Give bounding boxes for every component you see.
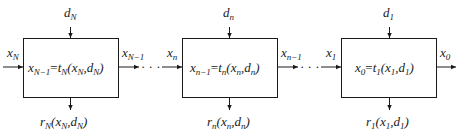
stage-N-input-label: xN [7, 46, 19, 64]
stage-N-transform-equation: xN−1=tN(xN,dN) [28, 61, 104, 79]
ellipsis-2: · · · [300, 60, 320, 74]
stage-1-transform-equation: x0=t1(x1,d1) [355, 61, 414, 79]
stage-n-return-label: rn(xn,dn) [207, 115, 250, 133]
stage-1-input-label: x1 [326, 46, 336, 64]
stage-n-decision-label: dn [223, 6, 234, 24]
stage-N-return-label: rN(xN,dN) [40, 115, 87, 133]
stage-n-transform-equation: xn−1=tn(xn,dn) [190, 61, 260, 79]
multistage-diagram: · · · · · · dN xN xN−1 xN−1=tN(xN,dN) rN… [0, 0, 459, 137]
stage-1-return-label: r1(x1,d1) [366, 115, 409, 133]
stage-N-output-label: xN−1 [122, 46, 144, 64]
stage-1-decision-label: d1 [383, 6, 394, 24]
stage-1-output-label: x0 [440, 46, 450, 64]
stage-n-input-label: xn [167, 46, 177, 64]
stage-n-output-label: xn−1 [281, 46, 302, 64]
stage-N-decision-label: dN [64, 6, 77, 24]
